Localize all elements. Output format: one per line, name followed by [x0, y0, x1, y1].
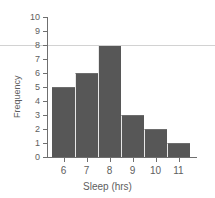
x-axis-tick-mark [156, 158, 157, 162]
bar [75, 73, 98, 157]
y-axis-tick-label: 7 [7, 55, 40, 64]
y-axis-tick-mark [43, 59, 47, 60]
y-axis-tick-label: 8 [7, 41, 40, 50]
x-axis-tick-mark [133, 158, 134, 162]
y-axis-tick-mark [43, 87, 47, 88]
x-axis-tick-mark [87, 158, 88, 162]
y-axis-tick-label: 1 [7, 139, 40, 148]
bar [144, 129, 167, 157]
x-axis-tick-label: 11 [164, 166, 194, 176]
x-axis-tick-mark [64, 158, 65, 162]
x-axis-tick-mark [179, 158, 180, 162]
x-axis-title: Sleep (hrs) [0, 182, 215, 192]
y-axis-tick-mark [43, 45, 47, 46]
x-axis-tick-mark [110, 158, 111, 162]
y-axis-line [47, 17, 48, 158]
y-axis-tick-mark [43, 17, 47, 18]
histogram-chart: 012345678910 67891011 Frequency Sleep (h… [0, 0, 215, 198]
y-axis-tick-label: 0 [7, 153, 40, 162]
y-axis-tick-mark [43, 143, 47, 144]
bar [167, 143, 190, 157]
y-axis-tick-mark [43, 31, 47, 32]
y-axis-tick-mark [43, 115, 47, 116]
bar [98, 45, 121, 157]
bar [52, 87, 75, 157]
y-axis-tick-label: 2 [7, 125, 40, 134]
y-axis-tick-mark [43, 157, 47, 158]
y-axis-title: Frequency [13, 75, 22, 118]
y-axis-tick-mark [43, 101, 47, 102]
x-axis-line [47, 157, 197, 158]
y-axis-tick-label: 10 [7, 13, 40, 22]
y-axis-tick-mark [43, 129, 47, 130]
y-axis-tick-label: 9 [7, 27, 40, 36]
y-axis-tick-mark [43, 73, 47, 74]
bar [121, 115, 144, 157]
